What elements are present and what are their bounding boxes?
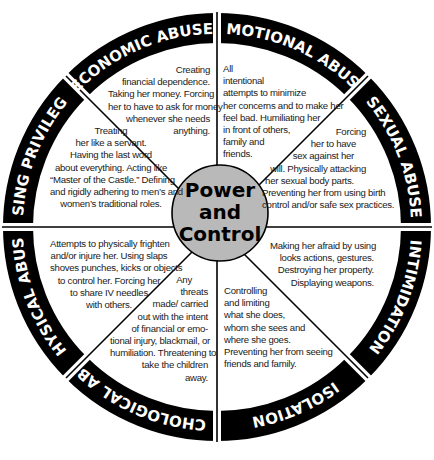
text-line: intentional bbox=[223, 75, 333, 87]
text-line: and rigidly adhering to men’s and bbox=[50, 186, 172, 198]
text-line: Attempts to physically frighten bbox=[50, 238, 168, 250]
text-line: feel bad. Humiliating her bbox=[223, 112, 333, 124]
text-line: looks actions, gestures. bbox=[270, 252, 374, 264]
text-line: her to have to ask for money bbox=[108, 101, 210, 113]
center-title-line-2: and bbox=[199, 200, 241, 224]
text-line: to share IV needles bbox=[50, 287, 168, 299]
text-line: All bbox=[223, 63, 333, 75]
wedge-text-physical-abuse: Attempts to physically frighten and/or i… bbox=[50, 238, 168, 311]
text-line: shoves punches, kicks or objects bbox=[50, 262, 168, 274]
wedge-text-using-privilege: Treating her like a servant. Having the … bbox=[50, 125, 172, 210]
text-line: away. bbox=[110, 372, 208, 384]
text-line: attempts to minimize bbox=[223, 87, 333, 99]
wedge-text-isolation: Controlling and limiting what she does, … bbox=[224, 285, 324, 370]
text-line: Creating bbox=[108, 64, 210, 76]
center-title-line-1: Power bbox=[185, 178, 255, 202]
text-line: Preventing her from seeing bbox=[224, 346, 324, 358]
text-line: will. Physically attacking bbox=[262, 163, 366, 175]
text-line: with others. bbox=[50, 299, 168, 311]
text-line: Making her afraid by using bbox=[270, 240, 374, 252]
text-line: her to have bbox=[262, 138, 366, 150]
text-line: and limiting bbox=[224, 297, 324, 309]
text-line: where she goes. bbox=[224, 334, 324, 346]
text-line: financial dependence. bbox=[108, 76, 210, 88]
text-line: Having the last word bbox=[50, 149, 172, 161]
text-line: of financial or emo- bbox=[110, 323, 208, 335]
text-line: to control her. Forcing her bbox=[50, 275, 168, 287]
center-title-line-3: Control bbox=[179, 222, 262, 246]
text-line: Preventing her from using birth bbox=[262, 187, 366, 199]
text-line: “Master of the Castle.” Defining bbox=[50, 174, 172, 186]
text-line: control and/or safe sex practices. bbox=[262, 199, 366, 211]
text-line: her sexual body parts. bbox=[262, 175, 366, 187]
text-line: what she does, bbox=[224, 309, 324, 321]
text-line: out with the intent bbox=[110, 311, 208, 323]
wedge-text-sexual-abuse: Forcing her to have sex against her will… bbox=[262, 126, 366, 211]
text-line: women’s traditional roles. bbox=[50, 198, 172, 210]
text-line: and/or injure her. Using slaps bbox=[50, 250, 168, 262]
text-line: about everything. Acting like bbox=[50, 162, 172, 174]
text-line: Controlling bbox=[224, 285, 324, 297]
text-line: sex against her bbox=[262, 150, 366, 162]
text-line: her like a servant. bbox=[50, 137, 172, 149]
center-hub: Power and Control bbox=[172, 165, 268, 261]
text-line: whenever she needs bbox=[108, 113, 210, 125]
text-line: tional injury, blackmail, or bbox=[110, 335, 208, 347]
text-line: Destroying her property. bbox=[270, 264, 374, 276]
text-line: her concerns and to make her bbox=[223, 100, 333, 112]
power-control-wheel: Power and Control ECONOMIC ABUSE EMOTION… bbox=[0, 0, 434, 460]
text-line: take the children bbox=[110, 359, 208, 371]
text-line: Treating bbox=[50, 125, 172, 137]
text-line: friends and family. bbox=[224, 358, 324, 370]
text-line: humiliation. Threatening to bbox=[110, 347, 208, 359]
text-line: Forcing bbox=[262, 126, 366, 138]
wedge-text-intimidation: Making her afraid by using looks actions… bbox=[270, 240, 374, 289]
text-line: whom she sees and bbox=[224, 322, 324, 334]
text-line: Taking her money. Forcing bbox=[108, 88, 210, 100]
